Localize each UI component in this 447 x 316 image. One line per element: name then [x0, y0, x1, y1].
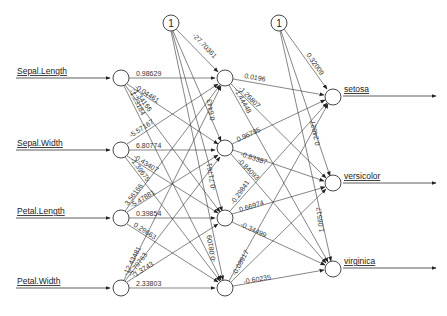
- weight-label: 0.96795: [235, 126, 261, 143]
- weight-label: 0.39854: [136, 210, 161, 217]
- weight-label: 0.66974: [238, 199, 264, 213]
- bias-nodes: 1 1: [163, 15, 287, 31]
- output-label-versicolor: versicolor: [344, 171, 381, 181]
- weight-label: 2.33803: [136, 280, 161, 287]
- output-label-setosa: setosa: [344, 84, 369, 94]
- hidden-node-4: [217, 280, 233, 296]
- output-node-setosa: [325, 89, 341, 105]
- input-label-petal-length: Petal.Length: [17, 206, 65, 216]
- bias-label-output: 1: [276, 18, 282, 29]
- input-node-2: [113, 142, 129, 158]
- weight-label: 0.98629: [136, 70, 161, 77]
- weight-label: -0.60235: [243, 273, 272, 285]
- input-node-1: [113, 70, 129, 86]
- weight-label: -0.71761: [205, 163, 217, 192]
- output-label-virginica: virginica: [344, 256, 375, 266]
- input-label-petal-width: Petal.Width: [17, 276, 61, 286]
- weight-label: -0.29841: [229, 179, 251, 206]
- weight-labels-hidden-output: 0.0196 -1.26807 -1.44448 0.96795 -0.8338…: [229, 72, 271, 285]
- weight-label: -0.34499: [240, 221, 268, 239]
- output-node-virginica: [325, 261, 341, 277]
- weight-label: 6.80774: [136, 142, 161, 149]
- input-node-3: [113, 210, 129, 226]
- weight-label: 0.0196: [244, 72, 266, 83]
- neural-network-diagram: Sepal.Length Sepal.Width Petal.Length Pe…: [0, 0, 447, 316]
- input-node-4: [113, 280, 129, 296]
- hidden-node-1: [217, 70, 233, 86]
- hidden-node-2: [217, 140, 233, 156]
- weight-label: 0.24027: [309, 120, 321, 146]
- input-label-sepal-length: Sepal.Length: [17, 66, 67, 76]
- weight-labels-bias-output: 0.32009 0.24027 1.06517: [305, 52, 325, 233]
- weight-label: -0.08917: [231, 249, 250, 277]
- weight-label: 0.6443: [205, 99, 216, 121]
- output-lines: [343, 96, 436, 268]
- weight-label: 1.06517: [315, 207, 325, 233]
- weight-label: -27.70361: [191, 32, 218, 60]
- bias1-hidden-edges: [171, 29, 223, 280]
- output-node-versicolor: [325, 175, 341, 191]
- bias-label-hidden: 1: [168, 18, 174, 29]
- input-lines: [16, 78, 110, 288]
- hidden-node-3: [217, 210, 233, 226]
- output-nodes: [325, 89, 341, 277]
- input-label-sepal-width: Sepal.Width: [17, 138, 63, 148]
- weight-label: -0.08109: [205, 235, 217, 264]
